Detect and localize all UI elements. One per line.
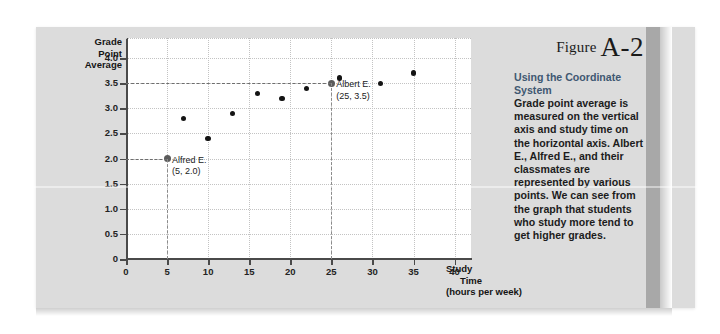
figure-caption-panel: FigureA-2 Using the Coordinate System Gr… [514, 32, 644, 242]
y-tick-label: 2.0 [90, 153, 118, 164]
data-point [205, 136, 210, 141]
y-tick-label: 2.5 [90, 127, 118, 138]
x-tick [290, 258, 292, 265]
x-tick [331, 258, 333, 265]
annotation-coords: (5, 2.0) [172, 166, 207, 178]
x-tick [167, 258, 169, 265]
scatter-chart: 00.51.01.52.02.53.03.54.0 05101520253035… [90, 38, 490, 293]
y-tick-label: 3.0 [90, 102, 118, 113]
data-point [279, 96, 284, 101]
gridline-h [126, 133, 471, 134]
annotation-leader-vertical [331, 83, 332, 259]
figure-label-word: Figure [556, 39, 596, 55]
x-tick [126, 258, 128, 265]
x-tick-label: 5 [154, 266, 180, 277]
gridline-v [249, 38, 250, 259]
data-point [411, 70, 416, 75]
x-axis-title-line-2: Time [446, 275, 566, 287]
x-tick-label: 15 [236, 266, 262, 277]
x-axis-title-line-3: (hours per week) [446, 286, 566, 298]
plot-area [126, 38, 471, 259]
gridline-h [126, 209, 471, 210]
y-axis-title-line-1: Grade [95, 36, 122, 47]
gridline-h [126, 58, 471, 59]
y-tick [120, 133, 127, 135]
y-tick-label: 1.5 [90, 178, 118, 189]
figure-heading: FigureA-2 [514, 32, 644, 63]
figure-caption-title: Using the Coordinate System [514, 71, 644, 97]
y-axis-line [126, 38, 128, 260]
figure-label-number: A-2 [601, 32, 645, 62]
y-axis-title: Grade Point Average [48, 36, 122, 71]
annotation-label: Albert E.(25, 3.5) [336, 79, 371, 102]
gridline-h-top [126, 38, 471, 39]
y-tick-label: 0 [90, 253, 118, 264]
y-tick [120, 234, 127, 236]
x-tick [208, 258, 210, 265]
annotation-name: Albert E. [336, 79, 371, 91]
gridline-v [455, 38, 456, 259]
figure-page: 00.51.01.52.02.53.03.54.0 05101520253035… [0, 0, 720, 334]
y-tick [120, 184, 127, 186]
data-point [255, 91, 260, 96]
y-tick-label: 1.0 [90, 203, 118, 214]
x-axis-line [126, 258, 472, 260]
annotation-coords: (25, 3.5) [336, 91, 371, 103]
gridline-h [126, 108, 471, 109]
gridline-h [126, 234, 471, 235]
x-tick [249, 258, 251, 265]
panel-bottom-edge [36, 308, 672, 316]
gridline-v [372, 38, 373, 259]
gridline-h [126, 184, 471, 185]
x-axis-title: Study Time (hours per week) [446, 263, 566, 298]
y-tick-label: 0.5 [90, 228, 118, 239]
x-tick-label: 35 [401, 266, 427, 277]
x-tick-label: 30 [359, 266, 385, 277]
panel-right-shade [646, 27, 660, 308]
x-axis-title-line-1: Study [446, 263, 472, 274]
annotation-name: Alfred E. [172, 155, 207, 167]
figure-caption-body: Grade point average is measured on the v… [514, 97, 644, 242]
annotation-label: Alfred E.(5, 2.0) [172, 155, 207, 178]
x-tick [372, 258, 374, 265]
x-tick-label: 0 [113, 266, 139, 277]
gridline-v [290, 38, 291, 259]
y-tick-label: 3.5 [90, 77, 118, 88]
y-tick [120, 108, 127, 110]
panel-right-soft-edge [660, 27, 672, 308]
y-axis-title-line-3: Average [85, 59, 122, 70]
x-tick-label: 25 [318, 266, 344, 277]
x-tick [414, 258, 416, 265]
annotation-leader-vertical [167, 159, 168, 259]
annotation-leader-horizontal [126, 159, 167, 160]
annotation-leader-horizontal [126, 83, 331, 84]
x-tick-label: 20 [277, 266, 303, 277]
y-tick [120, 209, 127, 211]
x-tick-label: 10 [195, 266, 221, 277]
gridline-v [208, 38, 209, 259]
y-axis-title-line-2: Point [98, 48, 122, 59]
